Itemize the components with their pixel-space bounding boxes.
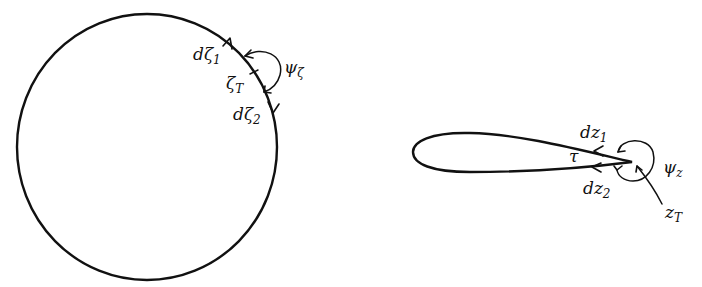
psi-z-arrow-end-icon (614, 166, 622, 170)
psi-zeta-label: ψζ (284, 57, 305, 80)
z-plane-panel: dz1 τ ψz dz2 zT (413, 122, 683, 225)
conformal-mapping-figure: dζ1 ζT ψζ dζ2 dz1 τ ψz dz2 zT (0, 0, 702, 287)
dz-1-label: dz1 (580, 122, 607, 145)
zeta-plane-panel: dζ1 ζT ψζ dζ2 (17, 14, 305, 280)
tau-label: τ (569, 146, 579, 166)
d-zeta-1-label: dζ1 (193, 44, 221, 67)
zeta-t-label: ζT (226, 73, 244, 96)
figure-svg: dζ1 ζT ψζ dζ2 dz1 τ ψz dz2 zT (0, 0, 702, 287)
dz-2-label: dz2 (583, 178, 610, 201)
circle-contour (17, 14, 277, 280)
psi-z-label: ψz (663, 157, 683, 180)
z-t-label: zT (664, 202, 683, 225)
d-zeta-2-label: dζ2 (233, 104, 261, 127)
psi-z-arrow-start-icon (618, 146, 625, 152)
dz-2-arrow-icon (592, 163, 601, 172)
